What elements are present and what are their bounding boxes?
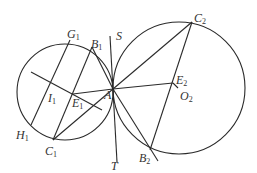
label-g1: G1 — [67, 27, 80, 42]
segment-b1-a — [92, 47, 113, 89]
right-circle — [113, 22, 245, 154]
label-i1: I1 — [47, 91, 56, 106]
label-e2: E2 — [175, 73, 187, 88]
label-s: S — [116, 29, 122, 43]
label-h1: H1 — [15, 128, 29, 143]
label-b1: B1 — [91, 37, 102, 52]
label-t: T — [111, 159, 119, 173]
line-through-i1 — [31, 72, 102, 110]
left-circle — [17, 44, 113, 140]
label-c2: C2 — [194, 11, 206, 26]
segment-a-e2 — [113, 83, 173, 89]
label-o2: O2 — [180, 89, 193, 104]
geometry-diagram: G1 B1 S C2 I1 E1 A E2 O2 H1 C1 T B2 — [0, 0, 257, 173]
label-b2: B2 — [139, 151, 150, 166]
chord-b1-c1 — [53, 47, 92, 140]
segment-a-b2 — [113, 89, 158, 161]
label-c1: C1 — [45, 144, 57, 159]
label-e1: E1 — [71, 96, 83, 111]
label-a: A — [103, 88, 112, 102]
